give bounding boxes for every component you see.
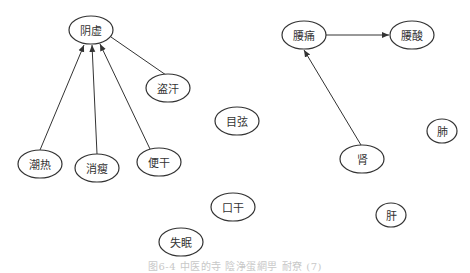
- node-label-kougan: 口干: [222, 199, 244, 215]
- edge-chaore-to-yinxu: [40, 45, 84, 150]
- node-label-shimian: 失眠: [170, 234, 192, 250]
- node-label-fei: 肺: [437, 123, 448, 139]
- edge-xiaoshou-to-yinxu: [92, 45, 97, 154]
- edge-biangan-to-yinxu: [100, 44, 150, 149]
- node-label-daohan: 盗汗: [157, 80, 179, 96]
- node-label-chaore: 潮热: [29, 156, 51, 172]
- edge-shen-to-yaotong: [304, 50, 361, 145]
- figure-caption: 图6-4 中医的寺 陰浄蛋網甼 耐尞 (7): [0, 258, 470, 273]
- node-label-xiaoshou: 消瘦: [86, 160, 108, 176]
- edges-layer: [40, 35, 389, 154]
- edge-daohan-to-yinxu: [111, 37, 166, 75]
- diagram-canvas: [0, 0, 470, 273]
- node-label-yaotong: 腰痛: [293, 27, 315, 43]
- node-label-muxuan: 目弦: [226, 113, 248, 129]
- node-label-yaosuan: 腰酸: [401, 27, 423, 43]
- node-label-gan: 肝: [386, 207, 397, 223]
- node-label-yinxu: 阴虚: [80, 22, 102, 38]
- node-label-biangan: 便干: [148, 154, 170, 170]
- node-label-shen: 肾: [357, 151, 368, 167]
